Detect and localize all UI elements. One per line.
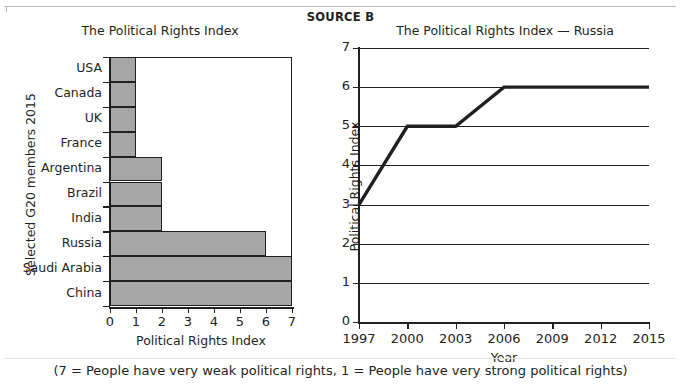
bar-x-tick-label: 7 <box>282 314 302 329</box>
line-x-tick-label: 2012 <box>578 331 624 346</box>
line-y-axis-label: Political Rights Index <box>347 92 362 282</box>
bar-row <box>110 57 292 82</box>
bar-x-tick <box>136 308 137 313</box>
bar-x-tick <box>214 308 215 313</box>
bar-x-tick-label: 0 <box>100 314 120 329</box>
bar-y-tick <box>103 157 109 158</box>
bar-row <box>110 281 292 306</box>
bar-x-tick-label: 2 <box>152 314 172 329</box>
line-x-tick-label: 2003 <box>433 331 479 346</box>
line-y-tick <box>353 48 359 49</box>
bar-x-tick-label: 6 <box>256 314 276 329</box>
bar-row <box>110 256 292 281</box>
line-x-tick <box>359 323 360 329</box>
russia-index-line <box>359 87 649 204</box>
bar-y-tick <box>103 82 109 83</box>
line-x-tick-label: 2000 <box>384 331 430 346</box>
line-chart-title: The Political Rights Index — Russia <box>345 23 665 38</box>
bar-y-axis-label: Selected G20 members 2015 <box>23 70 38 300</box>
bar-category-label: France <box>0 135 102 150</box>
bar-category-label: Russia <box>0 235 102 250</box>
line-x-tick <box>407 323 408 329</box>
bar-rect <box>110 157 162 182</box>
bar-row <box>110 132 292 157</box>
bar-y-tick <box>103 231 109 232</box>
bar-row <box>110 82 292 107</box>
bar-y-tick <box>103 132 109 133</box>
line-x-tick-label: 2015 <box>626 331 672 346</box>
bar-category-label: India <box>0 210 102 225</box>
bar-rect <box>110 132 136 157</box>
bar-rect <box>110 57 136 82</box>
bar-row <box>110 107 292 132</box>
bar-category-label: Brazil <box>0 185 102 200</box>
bar-x-tick-label: 3 <box>178 314 198 329</box>
bar-x-tick-label: 4 <box>204 314 224 329</box>
bar-category-label: Canada <box>0 85 102 100</box>
bar-x-tick <box>162 308 163 313</box>
bar-x-axis-label: Political Rights Index <box>110 333 292 348</box>
bar-x-tick-label: 1 <box>126 314 146 329</box>
bar-chart-title: The Political Rights Index <box>10 23 310 38</box>
bar-rect <box>110 182 162 207</box>
top-divider <box>4 6 676 7</box>
line-x-tick-label: 2009 <box>529 331 575 346</box>
bar-x-tick-label: 5 <box>230 314 250 329</box>
bar-y-tick <box>103 182 109 183</box>
line-x-tick <box>649 323 650 329</box>
bar-y-tick <box>103 206 109 207</box>
bar-row <box>110 182 292 207</box>
bar-rect <box>110 107 136 132</box>
bar-chart: The Political Rights Index USACanadaUKFr… <box>0 20 320 360</box>
bar-category-label: Argentina <box>0 160 102 175</box>
bar-y-tick <box>103 306 109 307</box>
bar-x-tick <box>188 308 189 313</box>
bar-rect <box>110 231 266 256</box>
bar-x-tick <box>266 308 267 313</box>
figure-caption: (7 = People have very weak political rig… <box>0 363 681 378</box>
bar-row <box>110 231 292 256</box>
bottom-divider <box>4 358 676 359</box>
bar-y-tick <box>103 57 109 58</box>
line-x-tick <box>504 323 505 329</box>
bar-y-tick <box>103 256 109 257</box>
line-y-tick-label: 0 <box>330 313 350 328</box>
line-x-tick-label: 1997 <box>336 331 382 346</box>
bar-y-tick <box>103 107 109 108</box>
bar-y-tick <box>103 281 109 282</box>
line-y-tick <box>353 87 359 88</box>
bar-rect <box>110 82 136 107</box>
line-series-svg <box>358 47 650 324</box>
bar-category-label: Saudi Arabia <box>0 260 102 275</box>
bar-category-label: UK <box>0 110 102 125</box>
bar-x-tick <box>240 308 241 313</box>
bar-category-label: USA <box>0 60 102 75</box>
bar-category-label: China <box>0 285 102 300</box>
bar-rect <box>110 206 162 231</box>
bar-row <box>110 157 292 182</box>
bar-x-tick <box>110 308 111 313</box>
source-b-figure: SOURCE B The Political Rights Index USAC… <box>0 0 681 386</box>
line-x-tick <box>601 323 602 329</box>
line-x-tick-label: 2006 <box>481 331 527 346</box>
bar-row <box>110 206 292 231</box>
line-chart: The Political Rights Index — Russia 7654… <box>320 20 681 360</box>
line-x-tick <box>552 323 553 329</box>
line-x-tick <box>456 323 457 329</box>
bar-x-tick <box>292 308 293 313</box>
line-y-tick-label: 7 <box>330 39 350 54</box>
line-y-tick <box>353 283 359 284</box>
bar-rect <box>110 256 292 281</box>
bar-rect <box>110 281 292 306</box>
